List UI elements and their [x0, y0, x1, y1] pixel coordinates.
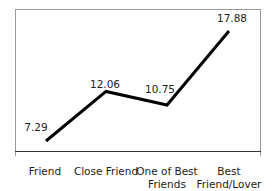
- x-axis-label: One of Best: [136, 165, 197, 177]
- x-axis-label: Friend/Lover: [197, 178, 263, 190]
- data-label: 17.88: [217, 12, 247, 24]
- data-label: 7.29: [24, 121, 47, 133]
- x-axis-label: Best: [217, 165, 240, 177]
- x-axis-label: Friends: [148, 178, 186, 190]
- plot-frame: [16, 10, 261, 152]
- data-labels: 7.2912.0610.7517.88: [24, 12, 247, 133]
- x-axis-label: Friend: [29, 165, 61, 177]
- line-chart: 7.2912.0610.7517.88 FriendClose FriendOn…: [0, 0, 275, 191]
- x-axis-label: Close Friend: [74, 165, 138, 177]
- series-line: [46, 31, 229, 141]
- data-label: 10.75: [145, 83, 175, 95]
- data-label: 12.06: [90, 78, 120, 90]
- x-axis-labels: FriendClose FriendOne of BestFriendsBest…: [29, 165, 262, 190]
